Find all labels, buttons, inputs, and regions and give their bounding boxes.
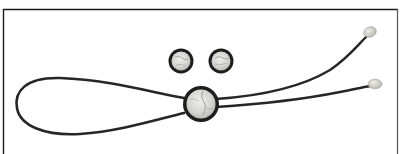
photo-frame	[4, 9, 399, 154]
cord-tip-lower	[368, 79, 382, 89]
cufflink-left	[169, 49, 194, 74]
cufflink-right	[209, 49, 234, 74]
product-photo: Braided black leather bolo tie with roun…	[0, 0, 400, 154]
bolo-cords-right	[216, 37, 370, 107]
bolo-slide	[183, 86, 219, 122]
bolo-cord-loop	[17, 78, 184, 134]
